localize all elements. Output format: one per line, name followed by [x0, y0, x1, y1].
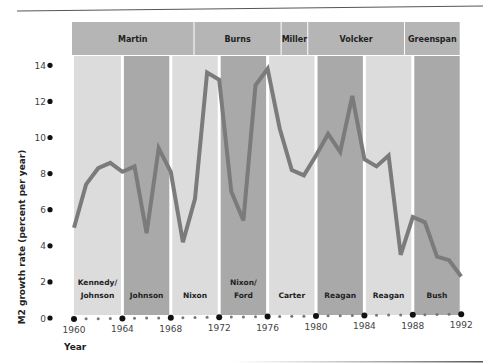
y-axis-title: M2 growth rate (percent per year) — [17, 150, 27, 325]
x-minor-dot — [194, 316, 197, 319]
x-tick-label: 1980 — [305, 322, 328, 332]
x-tick-label: 1960 — [63, 325, 86, 335]
x-minor-dot — [375, 314, 378, 317]
x-tick-dot — [265, 314, 271, 320]
fed-chair-header: Martin — [72, 22, 194, 55]
x-minor-dot — [290, 315, 293, 318]
y-tick-dot — [47, 99, 52, 104]
x-minor-dot — [157, 316, 160, 319]
bottom-rule — [230, 361, 483, 363]
y-tick-label: 2 — [40, 277, 46, 287]
x-minor-dot — [133, 317, 136, 320]
y-tick-dot — [47, 63, 52, 68]
m2-growth-chart: MartinBurnsMillerVolckerGreenspan Kenned… — [0, 0, 483, 364]
x-tick-dot — [313, 313, 319, 319]
presidency-label: Nixon/ — [230, 278, 257, 287]
y-tick-label: 8 — [40, 169, 46, 179]
fed-chair-header: Volcker — [308, 22, 404, 55]
x-tick-dot — [168, 315, 174, 321]
x-tick-label: 1976 — [256, 323, 279, 333]
x-minor-dot — [145, 317, 148, 320]
presidency-label: Bush — [427, 291, 448, 300]
presidency-label: Reagan — [324, 291, 356, 300]
x-minor-dot — [327, 314, 330, 317]
x-minor-dot — [399, 313, 402, 316]
presidency-label: Ford — [234, 291, 253, 300]
y-tick-dot — [47, 171, 52, 176]
fed-chair-name: Martin — [118, 35, 148, 44]
x-minor-dot — [230, 316, 233, 319]
presidency-band: Bush — [414, 56, 459, 315]
presidency-bands: Kennedy/JohnsonJohnsonNixonNixon/FordCar… — [74, 56, 460, 315]
y-tick-dot — [47, 315, 52, 320]
top-rule — [17, 6, 483, 11]
x-minor-dot — [97, 317, 100, 320]
y-tick-dot — [47, 279, 52, 284]
presidency-band: Nixon/Ford — [221, 56, 266, 315]
x-minor-dot — [278, 315, 281, 318]
y-tick-label: 14 — [35, 61, 47, 71]
fed-chair-header: Greenspan — [405, 22, 460, 55]
y-tick-label: 0 — [40, 314, 46, 324]
x-minor-dot — [351, 314, 354, 317]
x-minor-dot — [242, 315, 245, 318]
x-tick-dot — [458, 311, 464, 317]
x-tick-label: 1972 — [208, 323, 231, 333]
x-minor-dot — [436, 313, 439, 316]
y-tick-dot — [47, 135, 52, 140]
x-minor-dot — [448, 313, 451, 316]
x-tick-dot — [410, 312, 416, 318]
y-tick-label: 12 — [35, 97, 46, 107]
x-tick-dot — [71, 316, 77, 322]
presidency-band: Kennedy/Johnson — [74, 56, 121, 315]
presidency-label: Carter — [278, 291, 305, 300]
y-tick-label: 6 — [40, 205, 46, 215]
x-minor-dot — [254, 315, 257, 318]
presidency-label: Reagan — [373, 291, 405, 300]
y-tick-dot — [47, 207, 52, 212]
x-tick-label: 1992 — [450, 320, 473, 330]
x-minor-dot — [423, 313, 426, 316]
fed-chair-name: Miller — [282, 35, 308, 44]
x-tick-label: 1984 — [353, 321, 376, 331]
fed-chair-name: Volcker — [340, 35, 373, 44]
x-minor-dot — [206, 316, 209, 319]
presidency-band: Reagan — [318, 56, 363, 315]
x-tick-label: 1988 — [401, 321, 424, 331]
x-minor-dot — [387, 314, 390, 317]
y-tick-dot — [47, 243, 52, 248]
fed-chair-header: Burns — [195, 22, 281, 55]
presidency-label: Nixon — [183, 291, 207, 300]
presidency-band: Carter — [269, 56, 314, 315]
presidency-label: Johnson — [129, 291, 164, 300]
presidency-label: Johnson — [80, 291, 115, 300]
x-minor-dot — [339, 314, 342, 317]
x-tick-dot — [361, 312, 367, 318]
fed-chair-header: Miller — [282, 22, 308, 55]
y-axis: 02468101214 — [35, 61, 53, 324]
x-tick-dot — [216, 314, 222, 320]
x-tick-label: 1964 — [111, 324, 134, 334]
presidency-label: Kennedy/ — [78, 278, 118, 287]
x-minor-dot — [85, 317, 88, 320]
fed-chair-name: Greenspan — [408, 35, 457, 44]
fed-chair-headers: MartinBurnsMillerVolckerGreenspan — [72, 22, 460, 55]
x-minor-dot — [181, 316, 184, 319]
x-axis-title: Year — [63, 342, 87, 352]
presidency-band: Johnson — [124, 56, 169, 315]
presidency-band: Reagan — [366, 56, 411, 315]
x-minor-dot — [302, 315, 305, 318]
x-tick-label: 1968 — [159, 324, 182, 334]
x-minor-dot — [109, 317, 112, 320]
x-tick-dot — [119, 315, 125, 321]
fed-chair-name: Burns — [224, 35, 250, 44]
y-tick-label: 10 — [35, 133, 47, 143]
y-tick-label: 4 — [40, 241, 46, 251]
